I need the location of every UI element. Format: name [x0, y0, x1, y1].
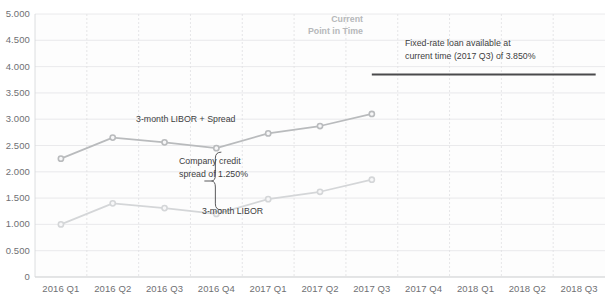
y-tick-label: 1.500 — [0, 192, 30, 203]
current-point-line1: Current — [300, 14, 363, 26]
y-tick-label: 0 — [0, 271, 30, 282]
y-tick-label: 0.500 — [0, 245, 30, 256]
fixed-rate-label-line2: current time (2017 Q3) of 3.850% — [405, 51, 536, 63]
current-point-line2: Point in Time — [290, 26, 363, 38]
y-tick-label: 3.000 — [0, 113, 30, 124]
credit-spread-label-line2: spread of 1.250% — [179, 169, 248, 181]
chart-canvas — [0, 0, 605, 303]
y-tick-label: 4.000 — [0, 61, 30, 72]
series-label-libor-spread: 3-month LIBOR + Spread — [136, 114, 236, 126]
y-tick-label: 1.000 — [0, 218, 30, 229]
y-tick-label: 2.000 — [0, 166, 30, 177]
y-tick-label: 2.500 — [0, 140, 30, 151]
series-label-libor: 3-month LIBOR — [202, 206, 263, 218]
chart-container: 00.5001.0001.5002.0002.5003.0003.5004.00… — [0, 0, 605, 303]
y-tick-label: 3.500 — [0, 87, 30, 98]
credit-spread-label-line1: Company credit — [179, 156, 241, 168]
y-tick-label: 5.000 — [0, 8, 30, 19]
fixed-rate-label-line1: Fixed-rate loan available at — [405, 38, 511, 50]
y-tick-label: 4.500 — [0, 34, 30, 45]
x-tick-label: 2018 Q3 — [549, 283, 605, 294]
